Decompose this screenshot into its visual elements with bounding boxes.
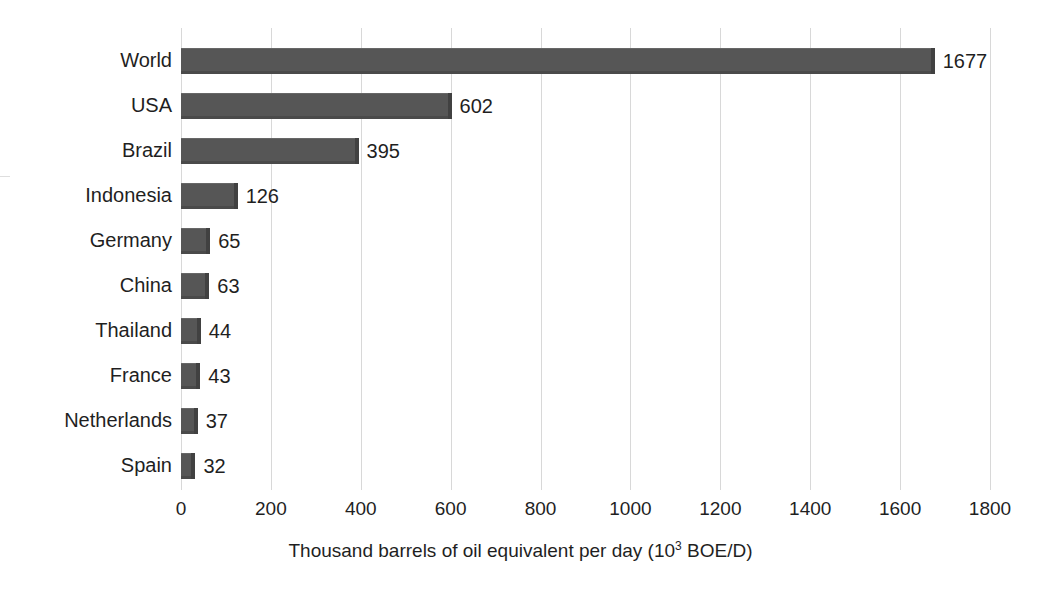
bar-row: USA602 (181, 83, 990, 128)
x-tick-label: 400 (345, 498, 377, 520)
bar-row: Indonesia126 (181, 173, 990, 218)
bar-row: Thailand44 (181, 308, 990, 353)
bar (181, 228, 210, 254)
bar-row: Netherlands37 (181, 398, 990, 443)
bar-value-label: 602 (460, 94, 493, 117)
bar-value-label: 43 (208, 364, 230, 387)
bar-row: World1677 (181, 38, 990, 83)
bar-value-label: 63 (217, 274, 239, 297)
bar (181, 318, 201, 344)
x-tick-label: 1600 (879, 498, 921, 520)
bar-value-label: 65 (218, 229, 240, 252)
bar (181, 138, 359, 164)
category-label: Indonesia (85, 173, 172, 218)
bar (181, 93, 452, 119)
x-axis: 020040060080010001200140016001800 (181, 498, 990, 524)
bar (181, 408, 198, 434)
bar-row: Germany65 (181, 218, 990, 263)
x-axis-title: Thousand barrels of oil equivalent per d… (0, 540, 1041, 562)
plot-area: World1677USA602Brazil395Indonesia126Germ… (181, 28, 990, 490)
x-tick-label: 1400 (789, 498, 831, 520)
bar-value-label: 1677 (943, 49, 988, 72)
bar-value-label: 32 (203, 454, 225, 477)
gridline (990, 28, 991, 490)
x-tick-label: 600 (435, 498, 467, 520)
category-label: Netherlands (64, 398, 172, 443)
category-label: Spain (121, 443, 172, 488)
bar-row: Brazil395 (181, 128, 990, 173)
x-tick-label: 1000 (609, 498, 651, 520)
bar-chart: World1677USA602Brazil395Indonesia126Germ… (0, 0, 1041, 604)
bar-value-label: 37 (206, 409, 228, 432)
x-axis-title-after: BOE/D) (682, 540, 753, 561)
x-axis-title-superscript: 3 (675, 539, 682, 553)
category-label: World (120, 38, 172, 83)
bar (181, 363, 200, 389)
x-tick-label: 800 (525, 498, 557, 520)
bar-value-label: 44 (209, 319, 231, 342)
category-label: China (120, 263, 172, 308)
category-label: USA (131, 83, 172, 128)
bar-row: France43 (181, 353, 990, 398)
x-tick-label: 1200 (699, 498, 741, 520)
scan-artifact (0, 176, 10, 177)
category-label: Thailand (95, 308, 172, 353)
bar (181, 183, 238, 209)
category-label: Brazil (122, 128, 172, 173)
bar-value-label: 395 (367, 139, 400, 162)
x-tick-label: 200 (255, 498, 287, 520)
x-tick-label: 1800 (969, 498, 1011, 520)
bar (181, 48, 935, 74)
bar (181, 273, 209, 299)
x-tick-label: 0 (176, 498, 187, 520)
bar-row: China63 (181, 263, 990, 308)
bar (181, 453, 195, 479)
category-label: France (110, 353, 172, 398)
x-axis-title-before: Thousand barrels of oil equivalent per d… (289, 540, 676, 561)
category-label: Germany (90, 218, 172, 263)
bar-value-label: 126 (246, 184, 279, 207)
bar-row: Spain32 (181, 443, 990, 488)
